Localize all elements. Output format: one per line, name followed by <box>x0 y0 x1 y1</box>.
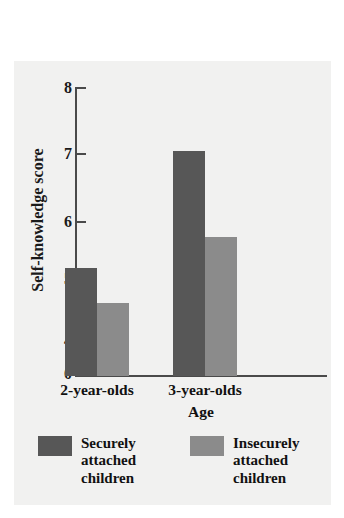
x-category-label-2-year-olds: 2-year-olds <box>47 381 147 399</box>
legend-item-securely-attached: Securely attached children <box>38 435 166 487</box>
y-tick-label-6: 6 <box>50 214 72 230</box>
legend-label-line-2: attached <box>81 452 136 469</box>
legend-label-securely-attached: Securely attached children <box>81 435 136 487</box>
legend-label-line-1: Insecurely <box>233 435 299 452</box>
chart-legend: Securely attached children Insecurely at… <box>38 435 318 487</box>
x-category-label-3-year-olds: 3-year-olds <box>155 381 255 399</box>
legend-swatch-insecurely-attached <box>190 436 224 456</box>
bar-2-year-olds-securely <box>65 268 97 376</box>
bar-2-year-olds-insecurely <box>97 303 129 376</box>
y-tick-label-8: 8 <box>50 80 72 96</box>
legend-label-insecurely-attached: Insecurely attached children <box>233 435 299 487</box>
y-tick-label-7: 7 <box>50 146 72 162</box>
y-tick-6 <box>77 221 86 223</box>
chart-figure: 8 7 6 5 4 0 2-year-olds 3-year-olds Self… <box>14 61 331 505</box>
bar-3-year-olds-securely <box>173 151 205 376</box>
legend-label-line-3: children <box>81 470 136 487</box>
legend-label-line-2: attached <box>233 452 299 469</box>
legend-label-line-1: Securely <box>81 435 136 452</box>
y-axis-title: Self-knowledge score <box>29 120 47 320</box>
legend-label-line-3: children <box>233 470 299 487</box>
legend-swatch-securely-attached <box>38 436 72 456</box>
y-tick-7 <box>77 153 86 155</box>
x-axis-title: Age <box>75 403 327 421</box>
bar-3-year-olds-insecurely <box>205 237 237 376</box>
y-tick-8 <box>77 87 86 89</box>
legend-item-insecurely-attached: Insecurely attached children <box>190 435 318 487</box>
